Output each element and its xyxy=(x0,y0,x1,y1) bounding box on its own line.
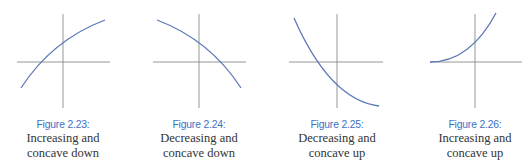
caption-line-2: concave up xyxy=(282,146,392,161)
figure-2-26-graph xyxy=(430,13,522,108)
caption-line-1: Decreasing and xyxy=(282,131,392,146)
figure-2-26-caption: Figure 2.26: Increasing and concave up xyxy=(420,117,530,160)
figure-label: Figure 2.25: xyxy=(288,117,387,131)
figure-label: Figure 2.26: xyxy=(426,117,525,131)
figure-2-25-caption: Figure 2.25: Decreasing and concave up xyxy=(282,117,392,160)
figure-2-23-graph xyxy=(17,14,110,108)
caption-line-2: concave down xyxy=(144,146,254,161)
figure-2-24-caption: Figure 2.24: Decreasing and concave down xyxy=(144,117,254,160)
figure-label: Figure 2.23: xyxy=(14,117,113,131)
caption-line-1: Decreasing and xyxy=(144,131,254,146)
figure-2-24-graph xyxy=(153,14,246,108)
caption-line-2: concave up xyxy=(420,146,530,161)
curve-increasing-concave-up xyxy=(430,13,496,62)
caption-line-1: Increasing and xyxy=(8,131,118,146)
figure-2-25-graph xyxy=(289,14,383,108)
caption-line-2: concave down xyxy=(8,146,118,161)
caption-line-1: Increasing and xyxy=(420,131,530,146)
figure-2-23-caption: Figure 2.23: Increasing and concave down xyxy=(8,117,118,160)
figure-label: Figure 2.24: xyxy=(150,117,249,131)
